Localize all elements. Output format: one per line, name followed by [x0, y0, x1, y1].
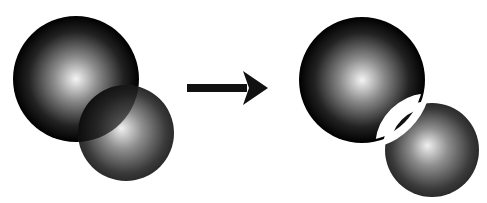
arrow-icon — [187, 71, 268, 105]
after-group — [297, 15, 479, 197]
before-group — [13, 16, 174, 181]
sphere-intersection-diagram — [0, 0, 487, 203]
